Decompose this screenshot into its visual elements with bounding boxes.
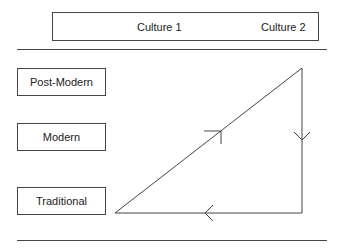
diagonal-edge: [115, 68, 302, 213]
cycle-diagram: [0, 0, 338, 250]
bottom-divider: [17, 240, 327, 241]
